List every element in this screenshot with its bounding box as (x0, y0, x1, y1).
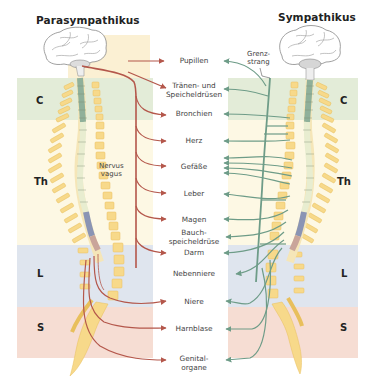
grenzstrang-line1: Grenz- (247, 50, 270, 58)
nervus-vagus-line2: vagus (99, 170, 124, 178)
region-label-s-right: S (340, 322, 347, 333)
organ-bauchspeicheldruese: Bauch- speicheldrüse (169, 229, 220, 246)
organ-nebenniere: Nebenniere (173, 270, 215, 279)
region-label-l-left: L (37, 268, 43, 279)
brain-right-icon (280, 26, 341, 81)
organ-harnblase: Harnblase (176, 325, 213, 334)
region-label-th-right: Th (337, 176, 351, 187)
nervus-vagus-line1: Nervus (99, 162, 124, 170)
parasympathetic-title: Parasympathikus (36, 14, 140, 26)
region-label-s-left: S (37, 322, 44, 333)
spine-left-icon (48, 78, 124, 376)
region-label-th-left: Th (34, 176, 48, 187)
organ-magen: Magen (182, 216, 207, 225)
autonomic-nervous-system-diagram: Parasympathikus Sympathikus C Th L S C T… (0, 0, 384, 389)
region-label-l-right: L (341, 268, 347, 279)
organ-herz: Herz (186, 137, 203, 146)
organ-darm: Darm (184, 249, 204, 258)
region-label-c-left: C (36, 95, 43, 106)
grenzstrang-label: Grenz- strang (247, 50, 270, 67)
organ-leber: Leber (184, 190, 205, 199)
sympathetic-title: Sympathikus (278, 11, 356, 23)
organ-gefaesse: Gefäße (181, 163, 207, 172)
region-label-c-right: C (340, 95, 347, 106)
nervus-vagus-label: Nervus vagus (99, 162, 124, 179)
grenzstrang-line2: strang (247, 58, 270, 66)
organ-niere: Niere (184, 298, 203, 307)
organ-bronchien: Bronchien (176, 110, 213, 119)
organ-genitalorgane: Genital- organe (180, 355, 209, 372)
organ-pupillen: Pupillen (180, 57, 209, 66)
organ-traenen-speicheldruesen: Tränen- und Speicheldrüsen (166, 82, 222, 99)
